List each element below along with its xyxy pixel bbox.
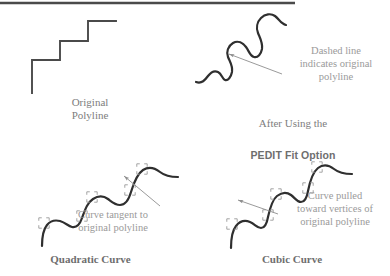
staircase-polyline-path [32, 21, 116, 93]
caption-pedit-line1: After Using the [218, 117, 368, 130]
caption-original-polyline: Original Polyline [20, 96, 160, 122]
arrow-to-quadratic-curve [124, 176, 160, 206]
fitted-serpentine-curve-path [196, 14, 286, 82]
caption-quadratic-curve: Quadratic Curve [8, 253, 173, 266]
figure-root: Original Polyline After Using the PEDIT … [0, 0, 390, 276]
caption-pedit-block: After Using the PEDIT Fit Option [218, 98, 368, 180]
annotation-curve-tangent: Curve tangent to original polyline [52, 209, 174, 235]
caption-pedit-line2: PEDIT Fit Option [218, 149, 368, 161]
caption-cubic-curve: Cubic Curve [212, 253, 372, 266]
annotation-dashed-line: Dashed line indicates original polyline [283, 45, 389, 83]
annotation-curve-pulled: Curve pulled toward vertices of original… [280, 190, 390, 228]
